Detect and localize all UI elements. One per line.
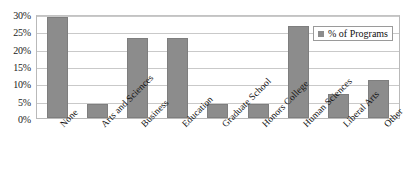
bar-slot xyxy=(37,16,77,118)
chart-legend: % of Programs xyxy=(313,26,393,41)
y-axis-tick-label: 15% xyxy=(13,62,31,73)
y-axis-tick-label: 10% xyxy=(13,79,31,90)
bar-slot xyxy=(77,16,117,118)
legend-label: % of Programs xyxy=(328,28,388,39)
x-axis: NoneArts and SciencesBusinessEducationGr… xyxy=(36,119,400,195)
bar[interactable] xyxy=(167,38,188,118)
y-axis-tick-label: 20% xyxy=(13,44,31,55)
legend-swatch-icon xyxy=(318,31,324,37)
bar[interactable] xyxy=(47,17,68,118)
y-axis-tick-label: 30% xyxy=(13,10,31,21)
y-axis-tick-label: 25% xyxy=(13,27,31,38)
y-axis: 0%5%10%15%20%25%30% xyxy=(0,15,34,119)
bar-chart-figure: 0%5%10%15%20%25%30% % of Programs NoneAr… xyxy=(0,0,414,195)
y-axis-tick-label: 5% xyxy=(18,96,31,107)
y-axis-tick-label: 0% xyxy=(18,114,31,125)
